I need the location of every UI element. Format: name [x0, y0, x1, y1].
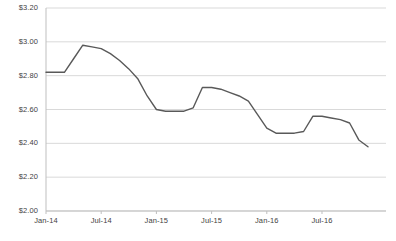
y-axis-tick-label: $3.20 — [2, 3, 38, 12]
x-axis-tick-label: Jan-15 — [135, 216, 177, 225]
series-line-price — [46, 45, 368, 147]
x-axis-tick-label: Jan-14 — [25, 216, 67, 225]
x-axis-tick-label: Jul-14 — [80, 216, 122, 225]
x-axis-tick-label: Jan-16 — [246, 216, 288, 225]
y-axis-tick-label: $2.00 — [2, 206, 38, 215]
x-axis-tick-label: Jul-16 — [301, 216, 343, 225]
y-axis-tick-label: $2.20 — [2, 172, 38, 181]
x-axis-tick-label: Jul-15 — [191, 216, 233, 225]
y-axis-tick-label: $3.00 — [2, 37, 38, 46]
gridline-group — [46, 8, 386, 211]
price-line-chart: $3.20$3.00$2.80$2.60$2.40$2.20$2.00 Jan-… — [0, 0, 396, 241]
y-axis-tick-label: $2.60 — [2, 105, 38, 114]
y-axis-tick-label: $2.40 — [2, 138, 38, 147]
chart-plot-area — [0, 0, 396, 241]
y-axis-tick-label: $2.80 — [2, 71, 38, 80]
